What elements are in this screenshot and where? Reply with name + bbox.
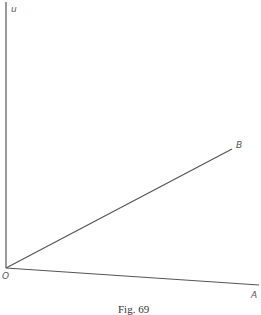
- label-origin: O: [2, 272, 9, 281]
- line-OB: [6, 149, 232, 268]
- label-B: B: [236, 141, 242, 150]
- figure-caption: Fig. 69: [118, 304, 149, 315]
- line-OA: [6, 268, 259, 285]
- label-u: u: [11, 5, 17, 14]
- label-A: A: [251, 291, 257, 300]
